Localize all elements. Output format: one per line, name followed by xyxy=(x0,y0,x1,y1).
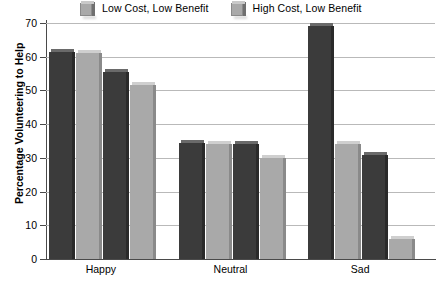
bar xyxy=(233,144,256,259)
legend-label: Low Cost, Low Benefit xyxy=(102,2,209,14)
bar xyxy=(389,239,412,259)
y-axis-title: Percentage Volunteering to Help xyxy=(13,44,25,204)
y-axis-tick-label: 70 xyxy=(25,17,37,29)
y-axis-tick-label: 30 xyxy=(25,152,37,164)
legend-label: High Cost, Low Benefit xyxy=(253,2,362,14)
bar xyxy=(206,144,229,259)
chart-legend: Low Cost, Low Benefit High Cost, Low Ben… xyxy=(80,0,384,22)
bar xyxy=(130,85,153,259)
bars-layer xyxy=(46,23,435,259)
y-axis-tick xyxy=(40,259,46,260)
bar xyxy=(179,143,202,259)
bar xyxy=(103,72,126,259)
bar xyxy=(260,158,283,259)
legend-swatch-icon xyxy=(80,1,95,16)
x-axis-category-label: Happy xyxy=(86,263,116,275)
y-axis-tick-label: 50 xyxy=(25,84,37,96)
bar xyxy=(308,26,331,259)
x-axis-category-label: Sad xyxy=(351,263,370,275)
bar xyxy=(335,144,358,259)
y-axis-tick-label: 40 xyxy=(25,118,37,130)
x-axis-labels: HappyNeutralSad xyxy=(46,263,435,281)
y-axis-tick-label: 60 xyxy=(25,51,37,63)
legend-swatch-icon xyxy=(231,1,246,16)
bar xyxy=(49,52,72,259)
x-axis-line xyxy=(40,259,436,260)
bar xyxy=(362,155,385,260)
y-axis-tick-label: 20 xyxy=(25,186,37,198)
bar xyxy=(76,53,99,259)
legend-item-low-cost-low-benefit: Low Cost, Low Benefit xyxy=(80,1,209,16)
x-axis-category-label: Neutral xyxy=(214,263,248,275)
y-axis-tick-label: 10 xyxy=(25,219,37,231)
legend-item-high-cost-low-benefit: High Cost, Low Benefit xyxy=(231,1,362,16)
bar-chart: Low Cost, Low Benefit High Cost, Low Ben… xyxy=(0,0,437,281)
y-axis-tick-label: 0 xyxy=(31,253,37,265)
